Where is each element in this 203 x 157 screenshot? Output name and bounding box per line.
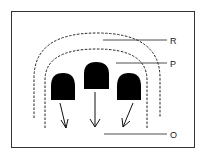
label-p: P — [170, 59, 176, 69]
right-shape — [117, 73, 141, 100]
center-shape — [84, 62, 109, 89]
label-o: O — [170, 130, 177, 140]
left-shape — [51, 73, 75, 100]
diagram: R P O — [0, 0, 203, 157]
label-r: R — [170, 36, 177, 46]
